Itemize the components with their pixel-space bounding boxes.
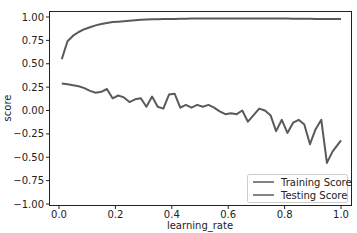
y-tick-label: 0.75 <box>22 35 44 46</box>
x-tick-label: 0.6 <box>220 209 236 220</box>
x-tick-label: 0.8 <box>277 209 293 220</box>
y-axis-ticks: 1.000.750.500.250.00−0.25−0.50−0.75−1.00 <box>13 12 49 210</box>
y-tick-label: 1.00 <box>22 12 44 23</box>
y-tick-label: −1.00 <box>13 199 44 210</box>
y-tick-label: 0.50 <box>22 58 44 69</box>
testing-score-line <box>62 83 341 162</box>
y-tick-label: −0.25 <box>13 128 44 139</box>
y-tick-label: 0.25 <box>22 82 44 93</box>
y-tick-label: 0.00 <box>22 105 44 116</box>
x-tick-label: 0.0 <box>51 209 67 220</box>
y-tick-label: −0.75 <box>13 175 44 186</box>
y-axis-label: score <box>2 95 13 122</box>
legend-training-label: Training Score <box>280 177 352 188</box>
x-tick-label: 0.4 <box>164 209 180 220</box>
x-axis-ticks: 0.00.20.40.60.81.0 <box>51 206 349 221</box>
x-tick-label: 1.0 <box>333 209 349 220</box>
learning-rate-score-chart: 1.000.750.500.250.00−0.25−0.50−0.75−1.00… <box>0 0 357 233</box>
x-tick-label: 0.2 <box>107 209 123 220</box>
y-tick-label: −0.50 <box>13 152 44 163</box>
legend-testing-label: Testing Score <box>280 190 347 201</box>
plot-area <box>62 18 341 163</box>
legend: Training Score Testing Score <box>248 175 352 203</box>
training-score-line <box>62 18 341 59</box>
x-axis-label: learning_rate <box>167 220 233 232</box>
